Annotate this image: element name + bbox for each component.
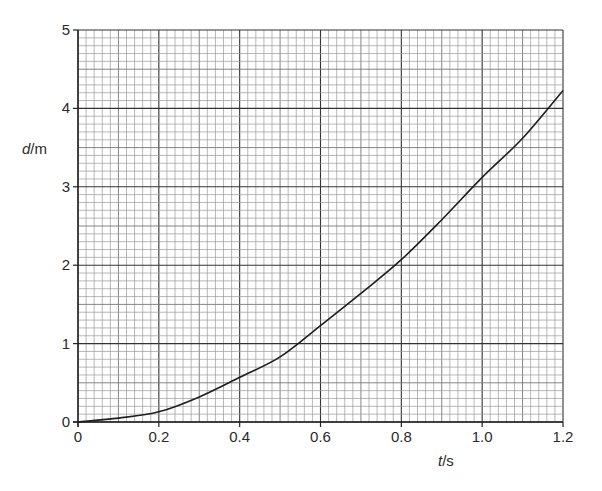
y-axis-title: d/m: [22, 140, 47, 157]
grid-paper: [78, 30, 563, 422]
x-tick-label: 0.2: [139, 428, 179, 445]
x-tick-label: 0.8: [381, 428, 421, 445]
y-tick-label: 1: [50, 335, 70, 352]
x-axis-title: t/s: [438, 452, 454, 469]
x-tick-label: 1.0: [462, 428, 502, 445]
y-tick-label: 4: [50, 99, 70, 116]
y-axis-unit: /m: [30, 140, 47, 157]
x-tick-label: 1.2: [543, 428, 583, 445]
x-tick-label: 0: [58, 428, 98, 445]
chart-plot: [0, 0, 602, 491]
y-tick-label: 5: [50, 21, 70, 38]
x-tick-label: 0.4: [220, 428, 260, 445]
x-axis-unit: /s: [442, 452, 454, 469]
y-tick-label: 2: [50, 256, 70, 273]
x-tick-label: 0.6: [301, 428, 341, 445]
y-tick-label: 3: [50, 178, 70, 195]
